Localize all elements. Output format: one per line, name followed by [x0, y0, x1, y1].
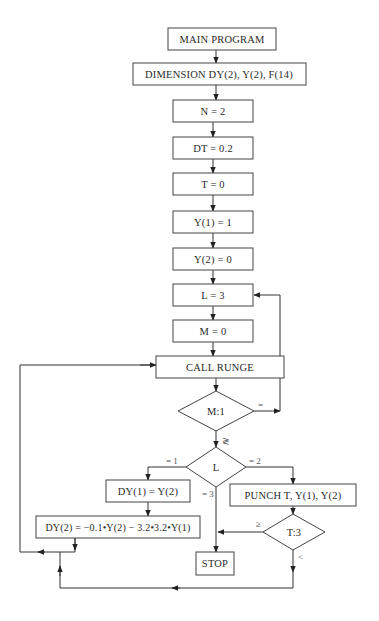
m-decision-label: M:1 — [207, 406, 225, 417]
dy1-assign-label: DY(1) = Y(2) — [118, 486, 179, 498]
y1-assign-label: Y(1) = 1 — [194, 217, 232, 229]
main-program-label: MAIN PROGRAM — [180, 34, 265, 45]
connectors — [20, 50, 293, 588]
m-equal-label: = — [258, 400, 263, 410]
arrow-loop-to-l-assign — [254, 295, 280, 411]
l-decision-label: L — [213, 462, 220, 473]
m-assign-label: M = 0 — [200, 326, 227, 337]
flowchart-canvas: MAIN PROGRAM DIMENSION DY(2), Y(2), F(14… — [0, 0, 379, 621]
node-call-runge: CALL RUNGE — [156, 356, 284, 378]
node-stop: STOP — [196, 552, 234, 575]
stop-label: STOP — [202, 558, 228, 569]
node-dt-assign: DT = 0.2 — [173, 137, 253, 159]
node-m-assign: M = 0 — [173, 320, 253, 342]
t-assign-label: T = 0 — [201, 179, 225, 190]
node-dy1-assign: DY(1) = Y(2) — [106, 480, 190, 502]
node-y2-assign: Y(2) = 0 — [173, 248, 253, 270]
arrow-l-eq2 — [246, 467, 293, 484]
dy2-assign-label: DY(2) = −0.1•Y(2) − 3.2•3.2•Y(1) — [45, 522, 190, 534]
l-eq2-label: = 2 — [249, 456, 261, 466]
node-l-assign: L = 3 — [173, 284, 253, 306]
line-dy2-exit — [20, 538, 75, 552]
node-punch: PUNCH T, Y(1), Y(2) — [230, 484, 356, 506]
punch-label: PUNCH T, Y(1), Y(2) — [245, 490, 342, 502]
line-bottom-left — [60, 562, 140, 588]
node-y1-assign: Y(1) = 1 — [173, 211, 253, 233]
n-assign-label: N = 2 — [200, 106, 225, 117]
l-assign-label: L = 3 — [201, 290, 224, 301]
node-main-program: MAIN PROGRAM — [168, 28, 276, 50]
dimension-label: DIMENSION DY(2), Y(2), F(14) — [145, 69, 293, 81]
l-eq1-label: = 1 — [166, 456, 178, 466]
node-l-decision: L — [186, 447, 246, 487]
dt-assign-label: DT = 0.2 — [193, 143, 233, 154]
node-dy2-assign: DY(2) = −0.1•Y(2) − 3.2•3.2•Y(1) — [36, 516, 200, 538]
call-runge-label: CALL RUNGE — [186, 362, 254, 373]
m-ge-label: ≷ — [222, 436, 230, 446]
y2-assign-label: Y(2) = 0 — [194, 254, 232, 266]
t-lt-label: < — [298, 552, 303, 562]
node-t-decision: T:3 — [263, 514, 325, 550]
node-dimension: DIMENSION DY(2), Y(2), F(14) — [133, 63, 306, 85]
node-m-decision: M:1 — [178, 391, 254, 431]
arrow-l-eq1 — [148, 467, 186, 480]
node-t-assign: T = 0 — [173, 173, 253, 195]
node-n-assign: N = 2 — [173, 100, 253, 122]
l-eq3-label: = 3 — [202, 489, 214, 499]
t-ge-label: ≥ — [256, 519, 261, 529]
t-decision-label: T:3 — [287, 527, 302, 538]
